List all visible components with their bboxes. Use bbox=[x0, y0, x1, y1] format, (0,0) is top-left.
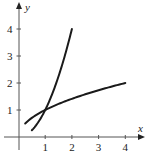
x-tick-label: 2 bbox=[69, 141, 75, 153]
x-axis-arrow-icon bbox=[138, 134, 145, 140]
x-tick-label: 3 bbox=[96, 141, 102, 153]
curves bbox=[25, 29, 125, 130]
x-tick-label: 4 bbox=[123, 141, 129, 153]
y-axis-label: y bbox=[24, 1, 30, 13]
x-tick-label: 1 bbox=[42, 141, 48, 153]
x-ticks: 1234 bbox=[42, 135, 128, 153]
y-tick-label: 1 bbox=[7, 104, 13, 116]
chart: x y 1234 1234 bbox=[0, 0, 146, 155]
x-axis-label: x bbox=[137, 122, 143, 134]
y-tick-label: 4 bbox=[7, 23, 13, 35]
y-tick-label: 2 bbox=[7, 77, 13, 89]
y-axis-arrow-icon bbox=[16, 2, 22, 9]
y-tick-label: 3 bbox=[7, 50, 13, 62]
axes: x y bbox=[4, 1, 145, 150]
